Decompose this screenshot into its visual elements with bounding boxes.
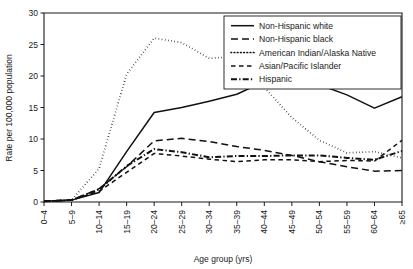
x-tick-label: 60–64 — [369, 210, 379, 234]
x-axis-ticks: 0–45–910–1415–1920–2425–2930–3435–3940–4… — [39, 202, 407, 234]
x-tick-label: 20–24 — [149, 210, 159, 234]
chart-legend: Non-Hispanic whiteNon-Hispanic blackAmer… — [224, 16, 401, 89]
x-tick-label: 25–29 — [177, 210, 187, 234]
y-tick-label: 20 — [29, 71, 39, 81]
x-tick-label: 5–9 — [67, 210, 77, 224]
y-tick-label: 10 — [29, 134, 39, 144]
legend-item-label[interactable]: American Indian/Alaska Native — [259, 48, 376, 58]
y-tick-label: 25 — [29, 40, 39, 50]
legend-item-label[interactable]: Non-Hispanic black — [259, 34, 334, 44]
legend-item-label[interactable]: Asian/Pacific Islander — [259, 61, 341, 71]
y-tick-label: 0 — [33, 197, 38, 207]
x-tick-label: 0–4 — [39, 210, 49, 224]
x-tick-label: 40–44 — [259, 210, 269, 234]
legend-item-label[interactable]: Hispanic — [259, 74, 293, 84]
x-tick-label: ≥65 — [397, 210, 407, 224]
x-tick-label: 50–54 — [314, 210, 324, 234]
y-tick-label: 15 — [29, 103, 39, 113]
x-tick-label: 35–39 — [232, 210, 242, 234]
series-line — [44, 77, 402, 202]
y-axis-title: Rate per 100,000 population — [4, 54, 14, 162]
x-tick-label: 30–34 — [204, 210, 214, 234]
x-tick-label: 45–49 — [287, 210, 297, 234]
line-chart: 051015202530 0–45–910–1415–1920–2425–293… — [0, 0, 413, 269]
y-tick-label: 5 — [33, 166, 38, 176]
legend-item-label[interactable]: Non-Hispanic white — [259, 21, 333, 31]
x-tick-label: 55–59 — [342, 210, 352, 234]
y-tick-label: 30 — [29, 8, 39, 18]
chart-figure: 051015202530 0–45–910–1415–1920–2425–293… — [0, 0, 413, 269]
x-tick-label: 10–14 — [94, 210, 104, 234]
x-axis-title: Age group (yrs) — [194, 254, 253, 264]
y-axis-ticks: 051015202530 — [29, 8, 44, 207]
x-tick-label: 15–19 — [122, 210, 132, 234]
